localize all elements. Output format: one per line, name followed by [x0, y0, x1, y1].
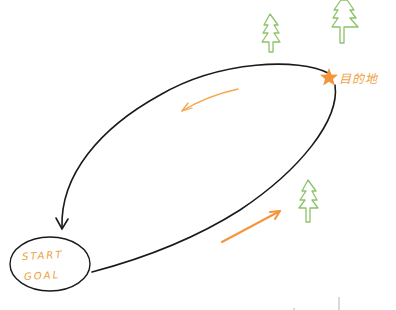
- goal-label: GOAL: [24, 269, 61, 282]
- start-label: START: [22, 249, 64, 262]
- route-loop-path: [62, 64, 335, 272]
- tree-icon: [262, 14, 280, 52]
- return-direction-arrow: [182, 89, 238, 111]
- tree-icon: [299, 180, 318, 222]
- tree-icon: [332, 0, 358, 43]
- route-diagram: [0, 0, 396, 310]
- start-goal-node: [10, 237, 90, 291]
- destination-label: 目的地: [339, 69, 378, 86]
- scan-marks: [294, 297, 339, 310]
